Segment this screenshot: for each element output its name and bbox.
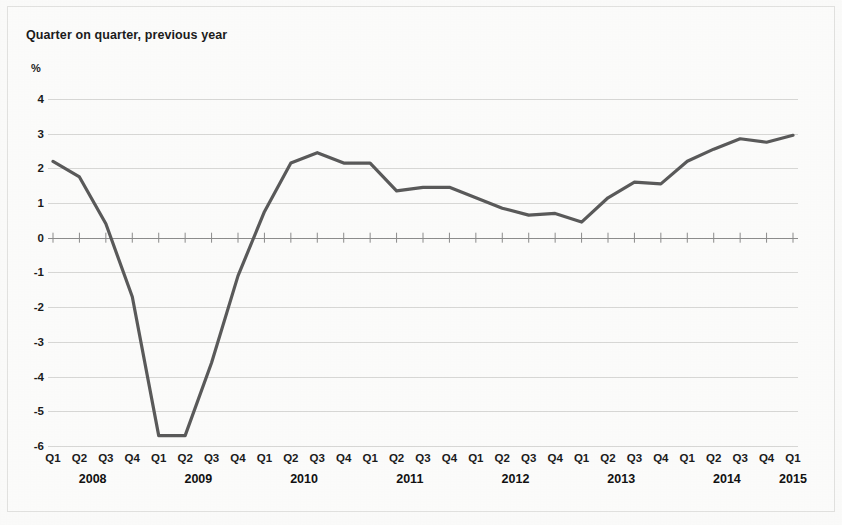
- y-axis-tick-label: 4: [14, 93, 44, 105]
- x-axis-quarter-label: Q1: [468, 452, 483, 464]
- x-axis-quarter-label: Q4: [336, 452, 351, 464]
- y-axis-tick-labels: 43210-1-2-3-4-5-6: [14, 78, 44, 446]
- chart-title: Quarter on quarter, previous year: [26, 28, 227, 42]
- x-axis-labels: Q1Q2Q3Q4Q1Q2Q3Q4Q1Q2Q3Q4Q1Q2Q3Q4Q1Q2Q3Q4…: [48, 452, 798, 508]
- y-axis-tick-label: 1: [14, 197, 44, 209]
- x-axis-quarter-label: Q1: [785, 452, 800, 464]
- x-axis-quarter-label: Q3: [627, 452, 642, 464]
- x-axis-quarter-label: Q2: [600, 452, 615, 464]
- x-axis-year-label: 2015: [779, 472, 807, 486]
- x-axis-quarter-label: Q4: [547, 452, 562, 464]
- x-axis-quarter-label: Q1: [45, 452, 60, 464]
- x-axis-quarter-label: Q4: [230, 452, 245, 464]
- x-axis-quarter-label: Q1: [151, 452, 166, 464]
- x-axis-quarter-label: Q4: [653, 452, 668, 464]
- y-axis-tick-label: -3: [14, 336, 44, 348]
- x-axis-year-label: 2012: [502, 472, 530, 486]
- x-axis-quarter-label: Q2: [389, 452, 404, 464]
- x-axis-quarter-label: Q4: [442, 452, 457, 464]
- y-axis-tick-label: 0: [14, 232, 44, 244]
- x-axis-quarter-label: Q3: [415, 452, 430, 464]
- gridline: [48, 446, 798, 447]
- y-axis-unit-label: %: [31, 62, 41, 74]
- plot-area: [48, 78, 798, 446]
- x-axis-quarter-label: Q1: [362, 452, 377, 464]
- x-axis-quarter-label: Q3: [732, 452, 747, 464]
- y-axis-tick-label: -5: [14, 405, 44, 417]
- x-axis-year-label: 2014: [713, 472, 741, 486]
- x-axis-year-label: 2013: [607, 472, 635, 486]
- x-axis-quarter-label: Q1: [257, 452, 272, 464]
- x-axis-quarter-label: Q2: [72, 452, 87, 464]
- y-axis-tick-label: 2: [14, 162, 44, 174]
- x-axis-quarter-label: Q1: [680, 452, 695, 464]
- x-axis-quarter-label: Q3: [204, 452, 219, 464]
- x-axis-quarter-label: Q2: [177, 452, 192, 464]
- x-axis-quarter-label: Q3: [521, 452, 536, 464]
- y-axis-tick-label: -2: [14, 301, 44, 313]
- x-axis-quarter-label: Q4: [759, 452, 774, 464]
- x-axis-year-label: 2011: [396, 472, 423, 486]
- x-axis-quarter-label: Q1: [574, 452, 589, 464]
- data-series-line: [48, 78, 798, 446]
- chart-figure: Quarter on quarter, previous year % 4321…: [0, 0, 842, 525]
- y-axis-tick-label: 3: [14, 128, 44, 140]
- x-axis-quarter-label: Q4: [125, 452, 140, 464]
- x-axis-quarter-label: Q3: [310, 452, 325, 464]
- x-axis-year-label: 2008: [79, 472, 107, 486]
- x-axis-year-label: 2009: [184, 472, 212, 486]
- x-axis-quarter-label: Q2: [495, 452, 510, 464]
- x-axis-quarter-label: Q2: [706, 452, 721, 464]
- y-axis-tick-label: -1: [14, 266, 44, 278]
- y-axis-tick-label: -4: [14, 371, 44, 383]
- y-axis-tick-label: -6: [14, 440, 44, 452]
- x-axis-quarter-label: Q2: [283, 452, 298, 464]
- x-axis-quarter-label: Q3: [98, 452, 113, 464]
- x-axis-year-label: 2010: [290, 472, 318, 486]
